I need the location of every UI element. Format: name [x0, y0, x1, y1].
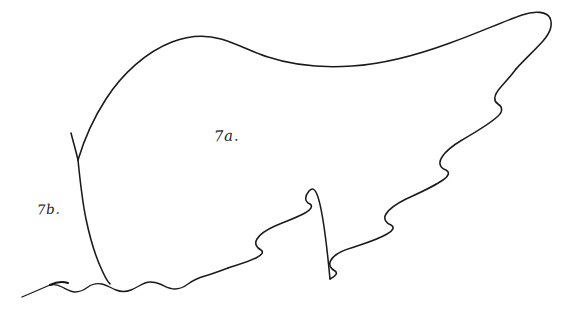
figure-label-7a: 7a.	[214, 126, 240, 145]
right-tip-hook-stroke	[516, 18, 551, 69]
bottom-wavelets-stroke	[50, 268, 228, 292]
figure-label-7b: 7b.	[37, 201, 61, 218]
mid-scalloped-edge-stroke	[228, 189, 330, 279]
notch-tick-stroke	[71, 133, 78, 160]
dividing-line-stroke	[78, 160, 110, 284]
scalloped-lower-right-edge-stroke	[330, 69, 516, 279]
lobe-junction-accent-stroke	[50, 282, 68, 285]
left-tail-stroke	[22, 285, 50, 297]
upper-smooth-edge-stroke	[78, 12, 550, 160]
figure-drawing	[0, 0, 581, 311]
figure-canvas: 7a. 7b.	[0, 0, 581, 311]
